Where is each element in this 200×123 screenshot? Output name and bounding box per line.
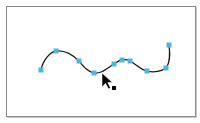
anchor-point[interactable] <box>92 71 97 76</box>
anchor-point[interactable] <box>112 62 117 67</box>
drawing-layer[interactable] <box>0 0 200 123</box>
direct-selection-arrow-icon <box>102 73 116 90</box>
arrow-cursor-icon <box>102 73 113 89</box>
anchor-point[interactable] <box>164 66 169 71</box>
anchor-point[interactable] <box>167 43 172 48</box>
anchor-point[interactable] <box>120 58 125 63</box>
anchor-point[interactable] <box>54 49 59 54</box>
anchor-point[interactable] <box>128 59 133 64</box>
anchor-point[interactable] <box>77 59 82 64</box>
bezier-path[interactable] <box>41 45 170 73</box>
filled-square-icon <box>112 86 116 90</box>
anchor-point[interactable] <box>145 69 150 74</box>
anchor-point[interactable] <box>39 68 44 73</box>
canvas[interactable] <box>0 0 200 123</box>
